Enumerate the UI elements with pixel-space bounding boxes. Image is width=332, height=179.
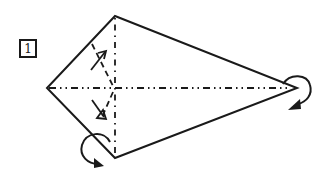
step-number-box: 1 [19,39,37,58]
origami-diagram: 1 [0,0,332,179]
step-number: 1 [24,43,32,55]
diagram-drawing [0,0,332,179]
right-turn-arrow-icon [283,76,311,110]
kite-outline [47,16,297,158]
lower-fold-arrow-icon [92,100,106,119]
